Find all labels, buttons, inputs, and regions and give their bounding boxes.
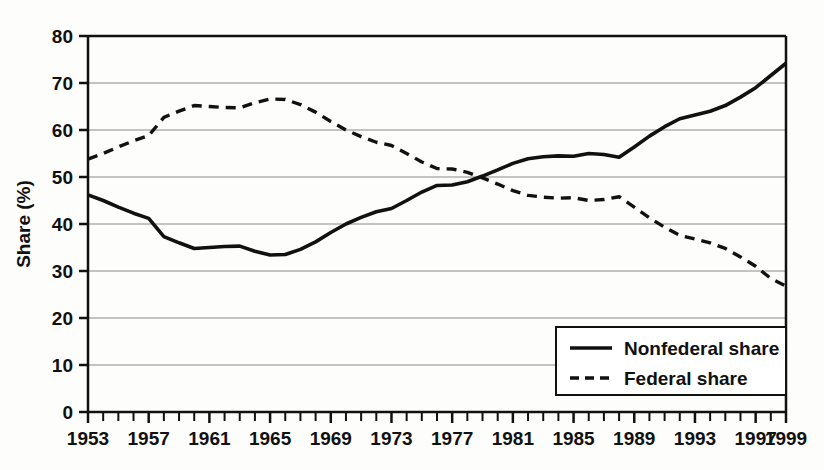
y-tick-label: 40 bbox=[52, 214, 73, 235]
y-tick-label: 80 bbox=[52, 26, 73, 47]
y-tick-label: 50 bbox=[52, 167, 73, 188]
x-axis-ticks: 1953195719611965196919731977198119851989… bbox=[67, 412, 807, 449]
gridlines bbox=[88, 83, 786, 365]
chart-legend: Nonfederal shareFederal share bbox=[556, 327, 786, 395]
y-tick-label: 60 bbox=[52, 120, 73, 141]
x-tick-label: 1985 bbox=[552, 428, 595, 449]
legend-label: Federal share bbox=[624, 368, 748, 389]
x-tick-label: 1961 bbox=[188, 428, 231, 449]
y-tick-label: 20 bbox=[52, 308, 73, 329]
data-series bbox=[88, 63, 786, 286]
x-tick-label: 1993 bbox=[674, 428, 716, 449]
y-tick-label: 70 bbox=[52, 73, 73, 94]
x-tick-label: 1965 bbox=[249, 428, 292, 449]
x-tick-label: 1953 bbox=[67, 428, 109, 449]
y-axis-title: Share (%) bbox=[13, 180, 34, 268]
x-tick-label: 1981 bbox=[492, 428, 535, 449]
y-axis-ticks: 01020304050607080 bbox=[52, 26, 88, 423]
chart-container: 01020304050607080 1953195719611965196919… bbox=[0, 0, 824, 470]
line-chart: 01020304050607080 1953195719611965196919… bbox=[0, 0, 824, 470]
series-line-2 bbox=[88, 99, 786, 286]
y-tick-label: 10 bbox=[52, 355, 73, 376]
x-tick-label: 1999 bbox=[765, 428, 807, 449]
y-tick-label: 0 bbox=[62, 402, 73, 423]
legend-label: Nonfederal share bbox=[624, 338, 779, 359]
x-tick-label: 1989 bbox=[613, 428, 655, 449]
y-tick-label: 30 bbox=[52, 261, 73, 282]
y-axis-title-label: Share (%) bbox=[13, 180, 34, 268]
x-tick-label: 1977 bbox=[431, 428, 473, 449]
x-tick-label: 1973 bbox=[370, 428, 412, 449]
x-tick-label: 1969 bbox=[310, 428, 352, 449]
series-line-1 bbox=[88, 63, 786, 255]
x-tick-label: 1957 bbox=[128, 428, 170, 449]
